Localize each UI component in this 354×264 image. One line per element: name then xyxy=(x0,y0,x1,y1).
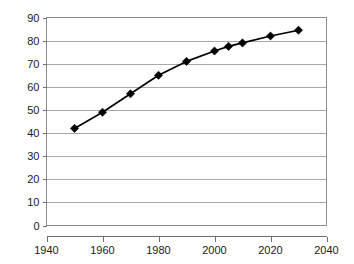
chart-canvas: 0102030405060708090 19401960198020002020… xyxy=(0,0,354,264)
line-chart: 0102030405060708090 19401960198020002020… xyxy=(0,0,354,264)
y-axis-tick-label: 90 xyxy=(27,12,39,24)
x-axis-tick-label: 1980 xyxy=(146,244,170,256)
y-axis-tick-label: 70 xyxy=(27,58,39,70)
x-axis-tick-label: 2000 xyxy=(202,244,226,256)
y-axis-tick-label: 60 xyxy=(27,81,39,93)
x-axis-tick-label: 1940 xyxy=(34,244,58,256)
x-axis-tick-label: 2020 xyxy=(258,244,282,256)
y-axis-tick-label: 10 xyxy=(27,196,39,208)
chart-background xyxy=(0,0,354,264)
y-axis-tick-label: 0 xyxy=(33,220,39,232)
y-axis-tick-label: 80 xyxy=(27,35,39,47)
y-axis-tick-label: 40 xyxy=(27,127,39,139)
x-axis-tick-label: 1960 xyxy=(90,244,114,256)
y-axis-tick-label: 20 xyxy=(27,173,39,185)
y-axis-tick-label: 30 xyxy=(27,150,39,162)
y-axis-tick-label: 50 xyxy=(27,104,39,116)
x-axis-tick-label: 2040 xyxy=(314,244,338,256)
